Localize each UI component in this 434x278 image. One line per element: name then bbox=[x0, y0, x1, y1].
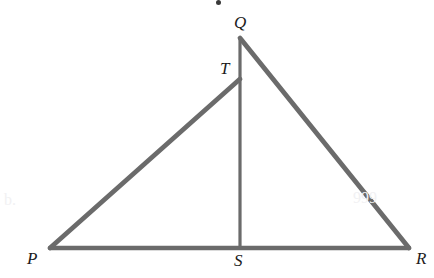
vertex-label-P: P bbox=[27, 250, 37, 267]
vertex-label-R: R bbox=[416, 250, 426, 267]
geometry-figure: P Q R S T b. 999 bbox=[0, 0, 434, 278]
scan-artifact-left: b. bbox=[4, 192, 16, 208]
vertex-label-T: T bbox=[220, 60, 229, 77]
vertex-label-Q: Q bbox=[234, 14, 246, 31]
geometry-svg bbox=[0, 0, 434, 278]
segment-QR bbox=[240, 38, 409, 248]
scan-speck-top bbox=[216, 0, 221, 5]
segment-PT bbox=[50, 79, 240, 248]
vertex-label-S: S bbox=[234, 252, 243, 269]
scan-artifact-right: 999 bbox=[353, 190, 377, 206]
